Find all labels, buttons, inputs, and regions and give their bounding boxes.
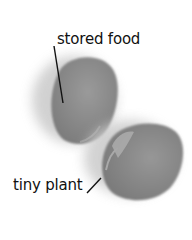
- label-stored-food: stored food: [57, 30, 140, 48]
- label-tiny-plant: tiny plant: [13, 176, 82, 194]
- seed-bottom: [84, 120, 183, 200]
